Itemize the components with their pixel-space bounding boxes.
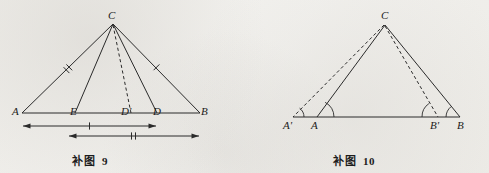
caption-number: 10 xyxy=(363,155,375,167)
caption-text: 补图 xyxy=(72,155,95,168)
vertex-label-C: C xyxy=(108,10,115,21)
segment-CD xyxy=(113,24,157,113)
vertex-label-B-prime: B' xyxy=(430,120,439,131)
tick-mark-single-CB xyxy=(154,64,160,70)
figure-10-caption: 补图10 xyxy=(333,152,375,168)
segment-CB xyxy=(113,24,200,113)
angle-arc-B-prime xyxy=(422,104,429,117)
segment-CDprime-dashed xyxy=(113,25,131,113)
vertex-label-B: B xyxy=(201,106,208,117)
figure-10-drawing xyxy=(245,0,489,173)
caption-number: 9 xyxy=(102,155,108,167)
vertex-label-D-prime: D' xyxy=(121,106,131,117)
vertex-label-A: A xyxy=(311,120,318,131)
angle-arc-B xyxy=(446,107,451,117)
dimension-bar-lower xyxy=(69,132,199,139)
vertex-label-E: E xyxy=(70,106,77,117)
segment-AC xyxy=(22,24,113,113)
vertex-label-A: A xyxy=(12,106,19,117)
vertex-label-A-prime: A' xyxy=(283,120,292,131)
vertex-label-B: B xyxy=(457,120,464,131)
dimension-bar-upper xyxy=(23,122,156,129)
segment-CAprime-dashed xyxy=(293,25,384,117)
segment-CB xyxy=(385,25,460,117)
figure-10: C A' A B' B 补图10 xyxy=(245,0,489,173)
figure-9-caption: 补图9 xyxy=(72,152,108,168)
vertex-label-D: D xyxy=(153,106,161,117)
figure-9-drawing xyxy=(0,0,245,173)
vertex-label-C: C xyxy=(381,10,388,21)
figure-9: C A E D' D B 补图9 xyxy=(0,0,245,173)
figure-sheet: C A E D' D B 补图9 xyxy=(0,0,489,173)
caption-text: 补图 xyxy=(333,155,356,168)
segment-CBprime-dashed xyxy=(385,26,438,117)
segment-CE xyxy=(75,24,113,113)
